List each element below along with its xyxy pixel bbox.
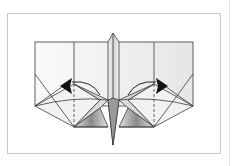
central-spine (108, 33, 119, 145)
origami-diagram (0, 0, 235, 166)
